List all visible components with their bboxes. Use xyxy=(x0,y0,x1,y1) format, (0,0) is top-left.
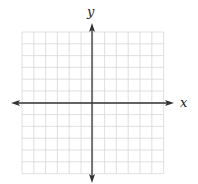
coordinate-plane: x y xyxy=(0,0,198,184)
y-axis-label: y xyxy=(86,4,95,19)
axes xyxy=(11,23,174,183)
x-axis-label: x xyxy=(180,95,188,110)
